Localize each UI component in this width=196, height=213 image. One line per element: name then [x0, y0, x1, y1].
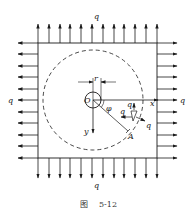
label-radius: r — [94, 74, 99, 83]
label-q-element-left: q — [120, 107, 125, 116]
plate-boundary — [38, 43, 157, 158]
label-point-a: A — [127, 132, 134, 141]
bottom-tension-arrows — [38, 158, 157, 178]
top-tension-arrows — [38, 24, 157, 43]
right-tension-arrows — [157, 43, 177, 158]
caption-prefix: 图 — [80, 200, 88, 209]
label-q-left: q — [8, 96, 13, 105]
label-origin: O — [84, 96, 91, 105]
caption-number: 5-12 — [99, 200, 117, 209]
label-angle: φ — [106, 104, 112, 113]
label-x-axis: x — [150, 99, 155, 108]
label-q-right: q — [180, 96, 185, 105]
label-q-element-top: q — [127, 100, 132, 109]
label-y-axis: y — [83, 127, 89, 136]
label-q-top: q — [94, 12, 99, 21]
plate-diagram: q q q — [0, 0, 196, 213]
label-q-bottom: q — [94, 181, 99, 190]
left-tension-arrows — [18, 43, 38, 158]
angle-arc — [102, 100, 105, 107]
label-q-element-right: q — [146, 121, 151, 130]
